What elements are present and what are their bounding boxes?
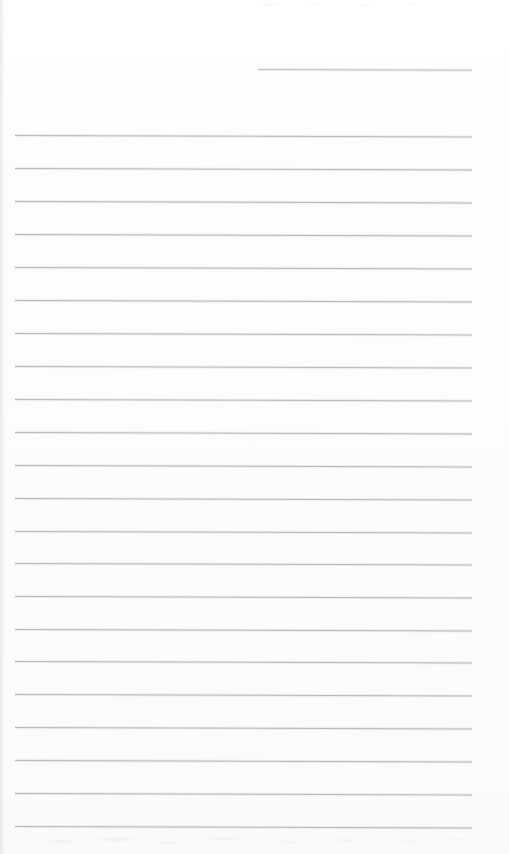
scanned-page — [0, 0, 509, 854]
paper-background — [0, 0, 509, 854]
